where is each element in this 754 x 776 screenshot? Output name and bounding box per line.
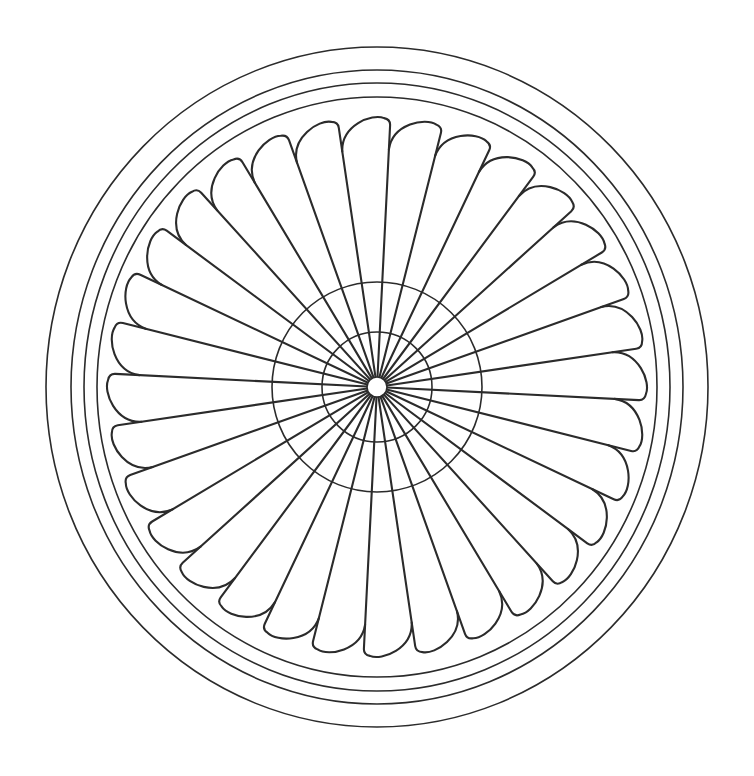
blade <box>112 389 367 468</box>
blade <box>387 352 647 400</box>
blade <box>219 395 371 617</box>
blade <box>387 306 642 385</box>
blade <box>379 397 458 652</box>
radial-blade-drawing <box>0 0 754 776</box>
inner-circles <box>272 282 482 492</box>
blade <box>364 397 412 657</box>
blade <box>296 122 375 377</box>
blade <box>252 136 374 378</box>
blade <box>383 157 535 379</box>
blade <box>386 262 628 384</box>
blade <box>342 117 390 377</box>
blade <box>107 374 367 422</box>
blade <box>126 390 368 512</box>
blade <box>380 396 502 638</box>
inner-circle-3 <box>367 377 387 397</box>
blade <box>385 393 607 545</box>
blade <box>147 229 369 381</box>
